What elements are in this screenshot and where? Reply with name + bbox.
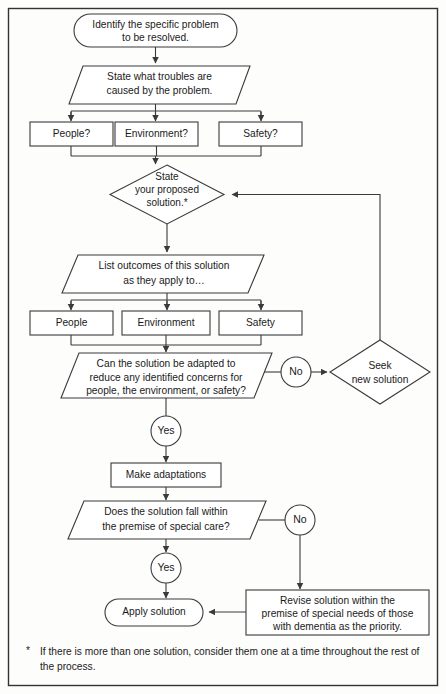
node-question-environment-label: Environment?	[125, 128, 188, 139]
node-make-adaptations-label: Make adaptations	[126, 469, 206, 480]
node-seek-line1: Seek	[368, 360, 392, 371]
node-propose-line3: solution.*	[146, 197, 187, 208]
footnote-marker: *	[26, 645, 30, 656]
node-premise-line2: the premise of special care?	[102, 521, 230, 532]
node-propose-line1: State	[155, 171, 179, 182]
node-question-safety-label: Safety?	[243, 128, 278, 139]
node-troubles-line1: State what troubles are	[107, 71, 212, 82]
edge-label-yes-adapt: Yes	[157, 424, 174, 436]
node-revise-line2: premise of special needs of those	[262, 608, 414, 619]
node-question-people-label: People?	[53, 128, 91, 139]
flowchart-canvas: Identify the specific problem to be reso…	[0, 0, 446, 694]
node-adapt-line1: Can the solution be adapted to	[97, 358, 236, 369]
edge-troubles-fanout-bus	[71, 104, 261, 118]
footnote-text: If there is more than one solution, cons…	[40, 645, 424, 674]
node-troubles-line2: caused by the problem.	[107, 85, 213, 96]
node-propose-line2: your proposed	[135, 184, 199, 195]
edge-outcomes-fanin-bus	[71, 335, 261, 345]
flowchart-page: Identify the specific problem to be reso…	[0, 0, 446, 694]
node-revise-line1: Revise solution within the	[280, 595, 395, 606]
edge-label-no-adapt: No	[289, 365, 303, 377]
node-premise-line1: Does the solution fall within	[104, 506, 227, 517]
node-outcome-people-label: People	[56, 317, 88, 328]
node-outcome-safety-label: Safety	[246, 317, 276, 328]
node-apply-solution-label: Apply solution	[122, 606, 185, 617]
node-adapt-line2: reduce any identified concerns for	[90, 372, 244, 383]
node-outcomes-line1: List outcomes of this solution	[99, 260, 230, 271]
node-outcome-environment-label: Environment	[137, 317, 194, 328]
edge-outcomes-fanout-bus	[71, 293, 261, 306]
node-seek-new-solution	[330, 340, 430, 404]
node-seek-line2: new solution	[352, 374, 409, 385]
node-start-line1: Identify the specific problem	[92, 19, 218, 30]
node-revise-line3: with dementia as the priority.	[272, 621, 402, 632]
node-outcomes-line2: as they apply to…	[123, 275, 205, 286]
edge-label-no-premise: No	[293, 513, 307, 525]
node-adapt-line3: people, the environment, or safety?	[86, 385, 246, 396]
edge-label-yes-premise: Yes	[157, 561, 174, 573]
node-start-line2: to be resolved.	[122, 32, 189, 43]
edge-questions-fanin-bus	[71, 146, 261, 156]
